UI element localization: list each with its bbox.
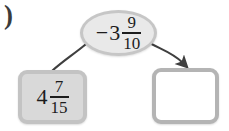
answer-blank-box[interactable]: [152, 68, 219, 124]
oval-fraction-numerator: 9: [126, 14, 137, 32]
oval-fraction-denominator: 10: [122, 34, 141, 52]
start-value-box: 4 7 15: [18, 70, 87, 124]
arrow-oval-to-right-box-path: [152, 44, 183, 63]
start-value-fraction-denominator: 15: [50, 98, 69, 116]
worksheet-figure: ) − 3 9 10 4 7 15: [0, 0, 229, 131]
arrow-oval-to-left-box-path: [53, 45, 86, 71]
start-value-fraction-numerator: 7: [54, 78, 65, 96]
oval-sign: −: [96, 22, 109, 44]
oval-fraction: 9 10: [122, 14, 141, 52]
oval-whole-number: 3: [109, 22, 120, 44]
start-value-math-expression: 4 7 15: [37, 78, 69, 116]
item-label: ): [0, 0, 13, 30]
start-value-whole-number: 4: [37, 86, 48, 108]
oval-math-expression: − 3 9 10: [96, 14, 141, 52]
oval-operation-node: − 3 9 10: [80, 10, 157, 56]
answer-blank-value[interactable]: [156, 72, 215, 120]
start-value-fraction: 7 15: [50, 78, 69, 116]
